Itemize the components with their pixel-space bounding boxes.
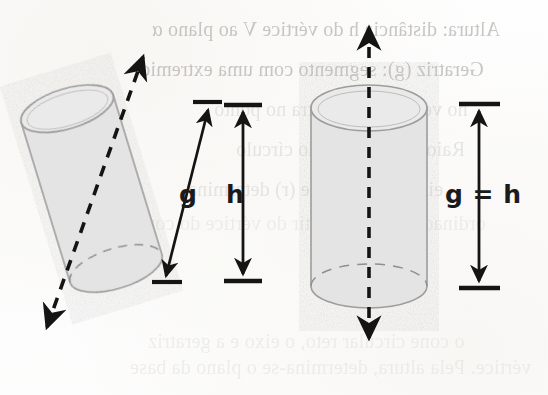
label-g: g bbox=[179, 182, 197, 207]
label-h: h bbox=[226, 182, 244, 207]
oblique-cylinder-body bbox=[15, 76, 167, 302]
label-g-equals-h: g = h bbox=[445, 182, 522, 207]
scanned-page: Altura: distância h do vértice V ao plan… bbox=[0, 0, 548, 395]
oblique-cylinder-group bbox=[15, 57, 262, 327]
